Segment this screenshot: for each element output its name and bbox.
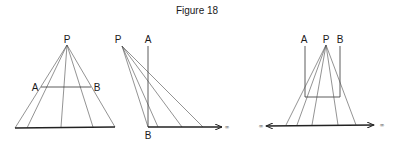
ray-line [326, 45, 338, 125]
ray-line [67, 45, 115, 127]
panel-right: A P B ∞ ∞ [259, 34, 385, 129]
label-p-middle: P [115, 34, 122, 45]
infinity-icon: ∞ [225, 123, 230, 130]
infinity-icon: ∞ [259, 122, 264, 129]
label-b-middle: B [145, 130, 152, 141]
label-a-right: A [301, 34, 308, 45]
ray-line [122, 46, 148, 127]
ray-line [122, 46, 158, 127]
figure-title: Figure 18 [176, 5, 219, 16]
label-b-right: B [337, 34, 344, 45]
baseline-right-double-arrow [266, 125, 374, 126]
panel-left: P A B [15, 34, 115, 128]
label-a-middle: A [145, 34, 152, 45]
label-b-left: B [94, 82, 101, 93]
path-ab-right [305, 46, 340, 97]
ray-line [312, 45, 326, 125]
ray-line [297, 45, 326, 125]
ray-line [122, 46, 203, 127]
ray-line [286, 45, 326, 125]
ray-line [15, 45, 67, 128]
infinity-icon: ∞ [380, 121, 385, 128]
ray-line [67, 45, 93, 127]
ray-line [122, 46, 182, 127]
panel-middle: P A B ∞ [115, 34, 230, 141]
baseline-left [15, 127, 115, 128]
ray-line [61, 45, 67, 127]
label-p-right: P [323, 34, 330, 45]
ray-line [326, 45, 356, 125]
label-p-left: P [64, 34, 71, 45]
figure-18-diagram: Figure 18 P A B P A B ∞ A P B [0, 0, 394, 149]
